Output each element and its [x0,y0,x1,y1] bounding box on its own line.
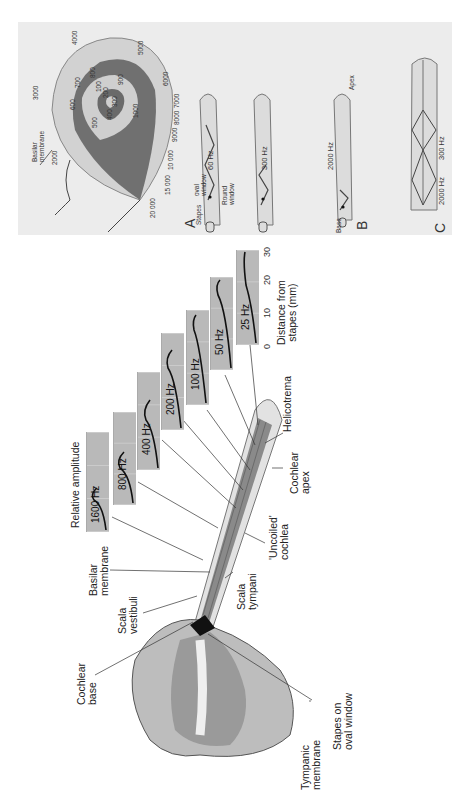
freq-10000: 10 000 [168,150,175,170]
x-tick-10: 10 [263,308,272,318]
panel-letter-c: C [433,223,448,233]
label-cochlear-apex: Cochlear apex [289,452,311,494]
label-tympanic-membrane: Tympanic membrane [300,740,322,790]
freq-9000: 9000 [172,128,179,142]
label-stapes-oval-window: Stapes on oval window [332,693,354,750]
label-round-window: Round window [222,183,236,205]
label-apex: Apex [349,75,356,90]
freq-500: 500 [92,117,99,128]
y-axis-label: Relative amplitude [70,442,81,528]
x-axis-label: Distance from stapes (mm) [276,280,298,345]
freq-200: 200 [103,87,110,98]
label-oval-window: oval window [194,174,208,196]
label-scala-tympani: Scala tympani [236,573,258,610]
traveling-wave-curves [0,0,452,796]
freq-900: 900 [118,74,125,85]
freq-4000: 4000 [72,31,79,45]
label-2000hz-b: 2000 Hz [327,142,335,170]
label-300hz-c: 300 Hz [438,136,446,160]
freq-1000: 1000 [133,104,140,118]
freq-700: 700 [75,77,82,88]
label-scala-vestibuli: Scala vestibuli [117,596,139,634]
label-basilar-membrane: Basilar membrane [88,546,110,596]
freq-5000: 5000 [138,41,145,55]
freq-6000: 6000 [163,72,170,86]
label-helicotrema: Helicotrema [282,376,293,432]
label-base: Base [336,218,343,233]
freq-100: 100 [96,81,103,92]
label-300hz: 300 Hz [261,146,269,170]
freq-600: 600 [70,99,77,110]
freq-7000: 7000 [174,94,181,108]
x-tick-30: 30 [263,247,272,257]
freq-300: 300 [112,96,119,107]
freq-15000: 15 000 [165,175,172,195]
freq-800: 800 [90,67,97,78]
freq-3000: 3000 [33,86,40,100]
freq-20000: 20 000 [150,198,157,218]
freq-8000: 8000 [174,111,181,125]
label-stapes: Stapes [196,205,203,225]
label-cochlear-base: Cochlear base [76,663,98,705]
freq-2000: 2000 [52,151,59,165]
label-uncoiled-cochlea: 'Uncoiled' cochlea [268,515,290,560]
freq-400: 400 [107,109,114,120]
label-60hz: 60 Hz [207,150,215,170]
x-tick-20: 20 [263,275,272,285]
panel-letter-b: B [355,221,370,230]
x-tick-0: 0 [263,344,272,349]
label-spiral-basilar-membrane: Basilar membrane [32,131,46,162]
label-2000hz-c: 2000 Hz [438,177,446,205]
